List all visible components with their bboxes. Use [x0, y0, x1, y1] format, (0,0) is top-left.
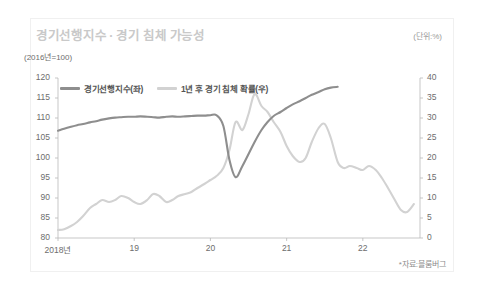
series-line-leading-index: [58, 87, 338, 178]
y-axis-left-tick-label: 105: [24, 132, 50, 142]
x-axis-tick-label: 2018년: [33, 243, 83, 255]
series-line-recession-probability: [58, 94, 414, 230]
y-axis-left-tick-label: 85: [24, 212, 50, 222]
y-axis-left-tick-label: 95: [24, 172, 50, 182]
y-axis-left-tick-label: 100: [24, 152, 50, 162]
source-note: *자료:블룸버그: [399, 258, 446, 269]
chart-figure: 경기선행지수 · 경기 침체 가능성 (단위:%) (2016년=100) 경기…: [0, 0, 480, 299]
y-axis-right-tick-label: 40: [427, 72, 453, 82]
y-axis-left-tick-label: 90: [24, 192, 50, 202]
x-axis-tick-label: 21: [262, 243, 312, 253]
y-axis-right-tick-label: 30: [427, 112, 453, 122]
y-axis-right-tick-label: 35: [427, 92, 453, 102]
y-axis-left-tick-label: 115: [24, 92, 50, 102]
y-axis-right-tick-label: 0: [427, 232, 453, 242]
y-axis-right-tick-label: 5: [427, 212, 453, 222]
y-axis-right-tick-label: 15: [427, 172, 453, 182]
y-axis-right-tick-label: 20: [427, 152, 453, 162]
y-axis-right-tick-label: 25: [427, 132, 453, 142]
x-axis-tick-label: 22: [338, 243, 388, 253]
y-axis-left-tick-label: 120: [24, 72, 50, 82]
x-axis-tick-label: 20: [185, 243, 235, 253]
x-axis-tick-label: 19: [109, 243, 159, 253]
y-axis-left-tick-label: 110: [24, 112, 50, 122]
y-axis-right-tick-label: 10: [427, 192, 453, 202]
y-axis-left-tick-label: 80: [24, 232, 50, 242]
plot-area: 8085909510010511011512005101520253035402…: [0, 0, 480, 299]
